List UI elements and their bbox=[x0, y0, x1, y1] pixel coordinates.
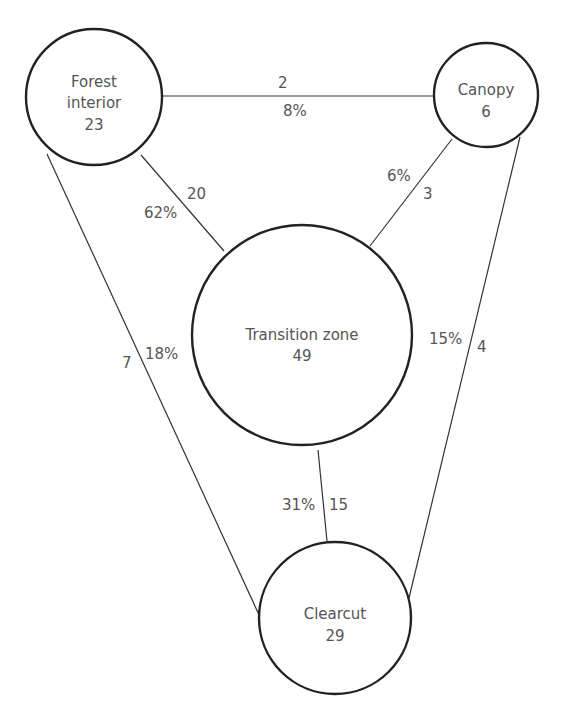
edge-forest-transition-percent: 62% bbox=[144, 204, 177, 222]
node-transition-zone-label: Transition zone bbox=[244, 326, 358, 344]
edge-canopy-transition-count: 3 bbox=[423, 185, 433, 203]
node-clearcut: Clearcut 29 bbox=[259, 542, 411, 694]
node-forest-interior-label-2: interior bbox=[67, 94, 122, 112]
node-canopy: Canopy 6 bbox=[434, 43, 538, 147]
edge-transition-clearcut-percent: 31% bbox=[282, 496, 315, 514]
network-diagram: 2 8% 20 62% 6% 3 7 18% 15% 4 31% 15 Fore… bbox=[0, 0, 562, 728]
edge-transition-clearcut-count: 15 bbox=[329, 496, 348, 514]
node-forest-interior-count: 23 bbox=[84, 116, 103, 134]
node-transition-zone: Transition zone 49 bbox=[192, 225, 412, 445]
edge-forest-clearcut-percent: 18% bbox=[145, 345, 178, 363]
node-forest-interior: Forest interior 23 bbox=[26, 29, 162, 165]
edge-canopy-clearcut-percent: 15% bbox=[429, 330, 462, 348]
edge-forest-canopy-percent: 8% bbox=[283, 102, 307, 120]
edge-canopy-transition bbox=[370, 139, 452, 246]
edge-forest-transition bbox=[141, 155, 224, 251]
edge-forest-canopy-count: 2 bbox=[278, 74, 288, 92]
node-canopy-count: 6 bbox=[481, 103, 491, 121]
edge-canopy-clearcut bbox=[409, 137, 520, 598]
node-canopy-label: Canopy bbox=[458, 81, 515, 99]
node-transition-zone-count: 49 bbox=[292, 347, 311, 365]
edge-forest-clearcut-count: 7 bbox=[122, 354, 132, 372]
edge-canopy-transition-percent: 6% bbox=[387, 167, 411, 185]
node-forest-interior-label-1: Forest bbox=[71, 73, 117, 91]
edge-forest-transition-count: 20 bbox=[187, 185, 206, 203]
edge-canopy-clearcut-count: 4 bbox=[477, 338, 487, 356]
node-clearcut-count: 29 bbox=[325, 627, 344, 645]
node-clearcut-label: Clearcut bbox=[304, 605, 367, 623]
edge-transition-clearcut bbox=[318, 450, 327, 541]
